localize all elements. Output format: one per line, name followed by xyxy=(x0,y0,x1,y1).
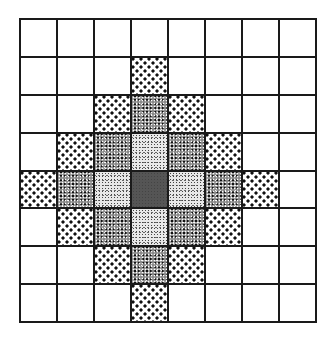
grid-cell-dots xyxy=(58,134,93,170)
grid-cell-dots xyxy=(58,209,93,245)
grid-cell-blank xyxy=(169,20,204,56)
grid-cell-dense xyxy=(132,96,167,132)
grid-cell-blank xyxy=(280,209,315,245)
grid-cell-blank xyxy=(21,209,56,245)
grid-cell-blank xyxy=(280,134,315,170)
grid-cell-blank xyxy=(21,134,56,170)
grid-cell-light xyxy=(132,134,167,170)
grid-cell-blank xyxy=(95,58,130,94)
grid-cell-blank xyxy=(58,285,93,321)
grid-cell-dots xyxy=(21,172,56,208)
grid-cell-light xyxy=(95,172,130,208)
grid-cell-dots xyxy=(95,247,130,283)
grid-cell-blank xyxy=(280,20,315,56)
grid-cell-light xyxy=(132,209,167,245)
grid-cell-blank xyxy=(58,20,93,56)
grid-cell-blank xyxy=(243,20,278,56)
grid-cell-blank xyxy=(206,247,241,283)
grid-cell-blank xyxy=(169,285,204,321)
diamond-grid xyxy=(19,18,317,323)
grid-cell-blank xyxy=(21,96,56,132)
grid-cell-blank xyxy=(243,247,278,283)
grid-cell-dots xyxy=(132,58,167,94)
grid-cell-blank xyxy=(243,209,278,245)
grid-cell-blank xyxy=(132,20,167,56)
grid-cell-blank xyxy=(21,285,56,321)
grid-cell-dots xyxy=(243,172,278,208)
grid-cell-blank xyxy=(243,134,278,170)
grid-cell-blank xyxy=(280,172,315,208)
grid-cell-dots xyxy=(206,209,241,245)
grid-cell-blank xyxy=(206,96,241,132)
grid-cell-blank xyxy=(21,20,56,56)
grid-cell-dots xyxy=(169,247,204,283)
grid-cell-blank xyxy=(169,58,204,94)
grid-cell-dense xyxy=(169,209,204,245)
grid-cell-dark xyxy=(132,172,167,208)
grid-cell-blank xyxy=(58,58,93,94)
grid-cell-dense xyxy=(95,134,130,170)
grid-cell-blank xyxy=(95,285,130,321)
grid-cell-blank xyxy=(280,58,315,94)
grid-cell-blank xyxy=(243,58,278,94)
grid-cell-blank xyxy=(206,20,241,56)
grid-cell-dense xyxy=(95,209,130,245)
grid-cell-blank xyxy=(21,247,56,283)
grid-cell-light xyxy=(169,172,204,208)
grid-cell-blank xyxy=(280,285,315,321)
grid-cell-dots xyxy=(169,96,204,132)
grid-cell-dots xyxy=(95,96,130,132)
grid-cell-blank xyxy=(280,247,315,283)
grid-cell-dense xyxy=(132,247,167,283)
grid-cell-blank xyxy=(206,285,241,321)
grid-cell-blank xyxy=(95,20,130,56)
grid-cell-dots xyxy=(132,285,167,321)
grid-cell-blank xyxy=(206,58,241,94)
grid-cell-dots xyxy=(206,134,241,170)
grid-cell-dense xyxy=(206,172,241,208)
grid-cell-blank xyxy=(58,96,93,132)
grid-cell-blank xyxy=(21,58,56,94)
grid-cell-blank xyxy=(243,285,278,321)
grid-cell-blank xyxy=(58,247,93,283)
grid-cell-dense xyxy=(58,172,93,208)
grid-cell-blank xyxy=(243,96,278,132)
grid-cell-blank xyxy=(280,96,315,132)
grid-cell-dense xyxy=(169,134,204,170)
